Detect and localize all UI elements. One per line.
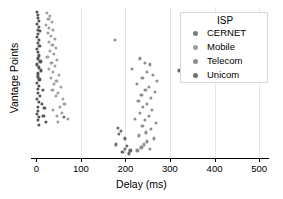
data-point <box>52 52 55 55</box>
y-axis-label: Vantage Points <box>8 8 20 148</box>
data-point <box>143 61 146 64</box>
data-point <box>151 108 154 111</box>
data-point <box>48 27 51 30</box>
data-point <box>36 10 39 13</box>
data-point <box>37 19 40 22</box>
data-point <box>36 105 39 108</box>
data-point <box>39 60 42 63</box>
data-point <box>119 129 122 132</box>
legend-marker-icon <box>193 45 198 50</box>
data-point <box>52 28 55 31</box>
data-point <box>62 116 65 119</box>
data-point <box>36 98 39 101</box>
data-point <box>42 114 45 117</box>
data-point <box>49 76 52 79</box>
x-axis-label: Delay (ms) <box>0 178 283 190</box>
data-point <box>116 126 119 129</box>
data-point <box>47 40 50 43</box>
legend-item-cernet[interactable]: CERNET <box>181 27 269 41</box>
data-point <box>36 63 39 66</box>
data-point <box>137 99 140 102</box>
data-point <box>146 140 149 143</box>
data-point <box>53 64 56 67</box>
data-point <box>48 67 51 70</box>
data-point <box>57 120 60 123</box>
data-point <box>143 119 146 122</box>
x-axis-line <box>31 158 269 159</box>
data-point <box>118 132 121 135</box>
legend-marker-icon <box>193 31 198 36</box>
data-point <box>147 85 150 88</box>
data-point <box>40 102 43 105</box>
data-point <box>36 81 39 84</box>
data-point <box>150 96 153 99</box>
data-point <box>46 31 49 34</box>
legend-item-label: Telecom <box>207 54 242 68</box>
legend-item-label: CERNET <box>207 26 246 40</box>
x-tick-label-200: 200 <box>118 163 134 174</box>
data-point <box>37 39 40 42</box>
legend-item-mobile[interactable]: Mobile <box>181 41 269 55</box>
data-point <box>121 150 124 153</box>
data-point <box>129 149 132 152</box>
data-point <box>66 117 69 120</box>
data-point <box>58 105 61 108</box>
data-point <box>114 143 117 146</box>
data-point <box>50 21 53 24</box>
data-point <box>51 43 54 46</box>
data-point <box>148 147 151 150</box>
data-point <box>113 39 116 42</box>
data-point <box>53 37 56 40</box>
gridline-x-100 <box>81 7 82 158</box>
data-point <box>60 111 63 114</box>
data-point <box>138 57 141 60</box>
data-point <box>63 102 66 105</box>
data-point <box>134 117 137 120</box>
data-point <box>36 13 39 16</box>
x-tick-label-500: 500 <box>251 163 267 174</box>
data-point <box>53 82 56 85</box>
data-point <box>54 46 57 49</box>
data-point <box>46 55 49 58</box>
gridline-x-300 <box>170 7 171 158</box>
data-point <box>141 76 144 79</box>
data-point <box>141 125 144 128</box>
x-tick-mark-400 <box>215 159 216 162</box>
x-tick-mark-100 <box>81 159 82 162</box>
x-tick-mark-0 <box>36 159 37 162</box>
data-point <box>61 98 64 101</box>
data-point <box>149 128 152 131</box>
data-point <box>49 14 52 17</box>
scatter-chart-figure: Vantage Points 0100200300400500 Delay (m… <box>0 0 283 199</box>
data-point <box>37 25 40 28</box>
data-point <box>48 49 51 52</box>
legend-item-label: Mobile <box>207 40 235 54</box>
legend-item-unicom[interactable]: Unicom <box>181 69 269 83</box>
data-point <box>57 73 60 76</box>
data-point <box>137 134 140 137</box>
legend-marker-icon <box>193 73 198 78</box>
data-point <box>40 69 43 72</box>
data-point <box>142 143 145 146</box>
data-point <box>37 54 40 57</box>
legend-box: ISP CERNETMobileTelecomUnicom <box>180 12 268 83</box>
data-point <box>37 84 40 87</box>
data-point <box>151 73 154 76</box>
data-point <box>135 82 138 85</box>
data-point <box>51 70 54 73</box>
legend-item-telecom[interactable]: Telecom <box>181 55 269 69</box>
data-point <box>146 70 149 73</box>
data-point <box>155 79 158 82</box>
data-point <box>36 42 39 45</box>
data-point <box>136 149 139 152</box>
data-point <box>139 111 142 114</box>
data-point <box>155 122 158 125</box>
legend-marker-icon <box>193 59 198 64</box>
data-point <box>36 36 39 39</box>
data-point <box>144 88 147 91</box>
data-point <box>152 137 155 140</box>
data-point <box>44 120 47 123</box>
data-point <box>38 78 41 81</box>
gridline-x-200 <box>125 7 126 158</box>
data-point <box>37 51 40 54</box>
